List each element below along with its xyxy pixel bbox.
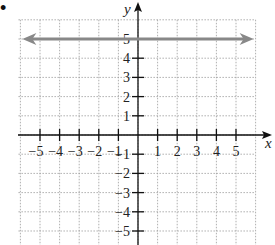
- y-tick-label: −5: [115, 224, 130, 239]
- x-tick-label: 5: [233, 144, 240, 159]
- y-tick-label: −3: [115, 186, 130, 201]
- coordinate-plane: −5−4−3−2−112345−5−4−3−2−112345 x y: [0, 0, 275, 245]
- y-tick-label: −1: [115, 147, 130, 162]
- x-tick-label: −4: [48, 144, 63, 159]
- y-tick-label: 3: [123, 70, 130, 85]
- y-axis-label: y: [122, 1, 131, 17]
- x-tick-label: −5: [29, 144, 44, 159]
- x-tick-label: −2: [87, 144, 102, 159]
- x-tick-label: −3: [68, 144, 83, 159]
- y-tick-label: −2: [115, 166, 130, 181]
- y-tick-label: 4: [123, 51, 130, 66]
- x-tick-label: 3: [193, 144, 200, 159]
- x-tick-label: 2: [174, 144, 181, 159]
- x-tick-label: 4: [213, 144, 220, 159]
- y-tick-label: 2: [123, 90, 130, 105]
- y-tick-label: 1: [123, 109, 130, 124]
- y-tick-label: −4: [115, 205, 130, 220]
- x-tick-label: 1: [154, 144, 161, 159]
- x-axis-label: x: [264, 135, 272, 151]
